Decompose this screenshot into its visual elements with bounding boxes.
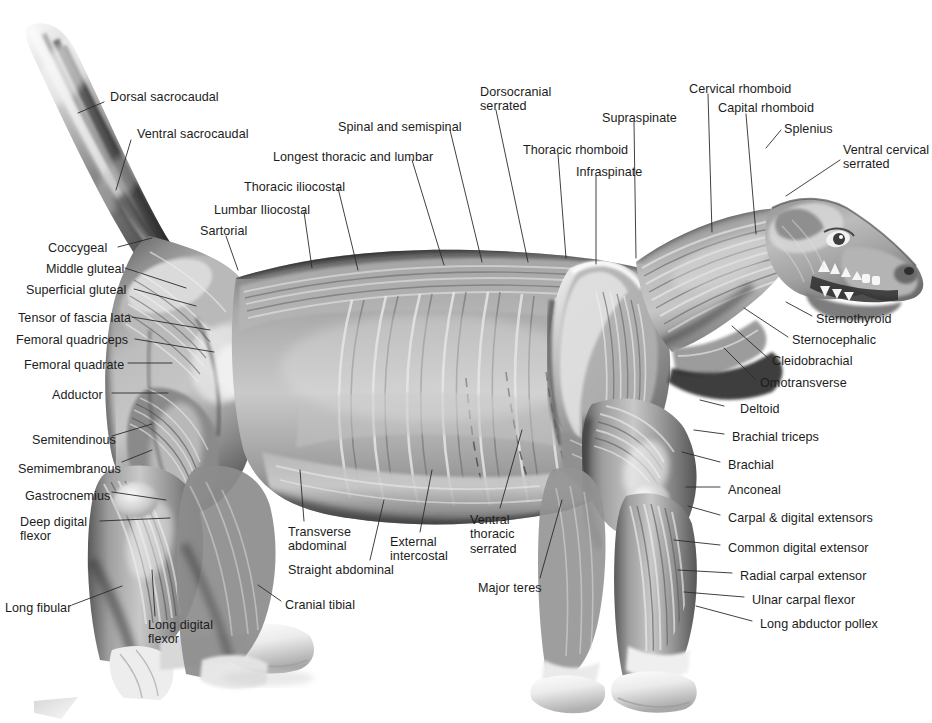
- label-thoracic-iliocostal: Thoracic iliocostal: [244, 180, 345, 194]
- label-spinal-and-semispinal: Spinal and semispinal: [338, 120, 462, 134]
- label-radial-carpal-extensor: Radial carpal extensor: [740, 569, 866, 583]
- label-ventral-thoracic-serrated: Ventral thoracic serrated: [470, 513, 517, 556]
- label-deep-digital-flexor: Deep digital flexor: [20, 515, 87, 544]
- label-brachial-triceps: Brachial triceps: [732, 430, 819, 444]
- label-dorsal-sacrocaudal: Dorsal sacrocaudal: [110, 90, 219, 104]
- label-lumbar-iliocostal: Lumbar Iliocostal: [214, 203, 310, 217]
- label-thoracic-rhomboid: Thoracic rhomboid: [523, 143, 628, 157]
- label-omotransverse: Omotransverse: [760, 376, 847, 390]
- label-long-abductor-pollex: Long abductor pollex: [760, 617, 878, 631]
- label-superficial-gluteal: Superficial gluteal: [26, 283, 126, 297]
- label-tensor-of-fascia-lata: Tensor of fascia lata: [18, 311, 131, 325]
- label-coccygeal: Coccygeal: [48, 241, 107, 255]
- label-ulnar-carpal-flexor: Ulnar carpal flexor: [752, 593, 855, 607]
- label-ventral-cervical-serrated: Ventral cervical serrated: [843, 143, 929, 172]
- head-region: [763, 196, 923, 321]
- label-sternothyroid: Sternothyroid: [816, 312, 892, 326]
- label-cleidobrachial: Cleidobrachial: [772, 354, 853, 368]
- label-longest-thoracic-lumbar: Longest thoracic and lumbar: [273, 150, 433, 164]
- label-cranial-tibial: Cranial tibial: [285, 598, 355, 612]
- label-middle-gluteal: Middle gluteal: [46, 262, 124, 276]
- label-capital-rhomboid: Capital rhomboid: [718, 101, 814, 115]
- label-long-digital-flexor: Long digital flexor: [148, 618, 213, 647]
- label-sternocephalic: Sternocephalic: [792, 333, 876, 347]
- label-dorsocranial-serrated: Dorsocranial serrated: [480, 85, 551, 114]
- label-common-digital-extensor: Common digital extensor: [728, 541, 868, 555]
- label-major-teres: Major teres: [478, 581, 542, 595]
- label-anconeal: Anconeal: [728, 483, 781, 497]
- label-long-fibular: Long fibular: [5, 601, 71, 615]
- label-supraspinate: Supraspinate: [602, 111, 677, 125]
- label-sartorial: Sartorial: [200, 224, 247, 238]
- ground-shadow: [222, 670, 314, 686]
- label-gastrocnemius: Gastrocnemius: [25, 489, 110, 503]
- foreleg-far-region: [530, 468, 605, 714]
- label-cervical-rhomboid: Cervical rhomboid: [689, 82, 791, 96]
- label-adductor: Adductor: [52, 388, 103, 402]
- anatomy-figure: Dorsal sacrocaudalVentral sacrocaudalCoc…: [0, 0, 932, 723]
- label-semitendinous: Semitendinous: [32, 433, 116, 447]
- label-straight-abdominal: Straight abdominal: [288, 563, 394, 577]
- label-transverse-abdominal: Transverse abdominal: [288, 525, 351, 554]
- label-ventral-sacrocaudal: Ventral sacrocaudal: [137, 127, 249, 141]
- label-femoral-quadriceps: Femoral quadriceps: [16, 333, 128, 347]
- label-brachial: Brachial: [728, 458, 774, 472]
- label-semimembranous: Semimembranous: [18, 462, 121, 476]
- label-femoral-quadrate: Femoral quadrate: [24, 358, 124, 372]
- label-deltoid: Deltoid: [740, 402, 780, 416]
- label-infraspinate: Infraspinate: [576, 165, 642, 179]
- label-carpal-digital-extensors: Carpal & digital extensors: [728, 511, 873, 525]
- label-external-intercostal: External intercostal: [390, 535, 448, 564]
- label-splenius: Splenius: [784, 122, 833, 136]
